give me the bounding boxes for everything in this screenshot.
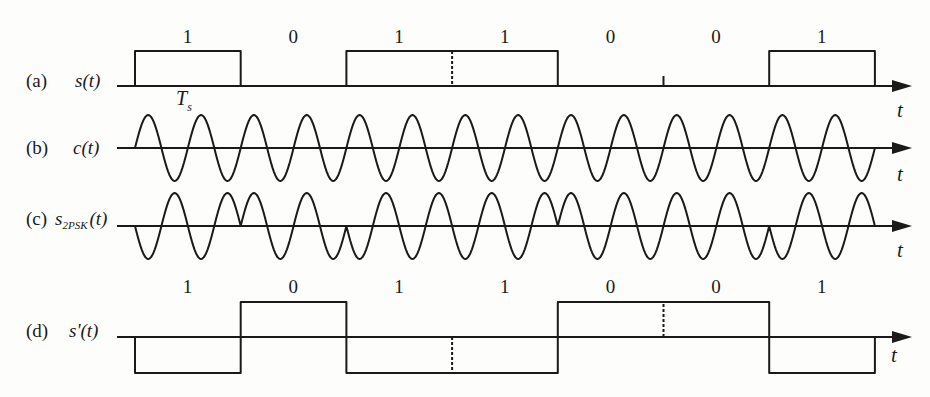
row-a-pulse-path [135,51,875,86]
row-a-data-signal [117,51,912,92]
waveform-plot [0,0,930,397]
row-a-arrow-icon [892,80,912,92]
psk-diagram: (a) s(t) (b) c(t) (c) s2PSK(t) (d) s'(t)… [0,0,930,397]
row-b-arrow-icon [892,142,912,154]
row-d-arrow-icon [892,331,912,343]
row-d-bipolar-signal [117,302,912,373]
row-c-arrow-icon [892,220,912,232]
row-b-carrier [117,115,912,181]
row-c-2psk-signal [117,193,912,259]
